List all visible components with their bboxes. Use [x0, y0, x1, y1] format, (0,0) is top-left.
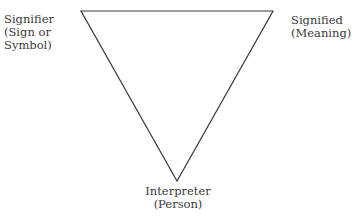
signifier-label: Signifier (Sign or Symbol)	[4, 13, 54, 52]
signified-subtitle: (Meaning)	[291, 27, 351, 40]
interpreter-label: Interpreter (Person)	[136, 185, 220, 211]
triangle-outline	[81, 11, 273, 181]
signified-label: Signified (Meaning)	[291, 14, 351, 40]
interpreter-subtitle: (Person)	[136, 198, 220, 211]
signifier-subtitle-2: Symbol)	[4, 39, 54, 52]
